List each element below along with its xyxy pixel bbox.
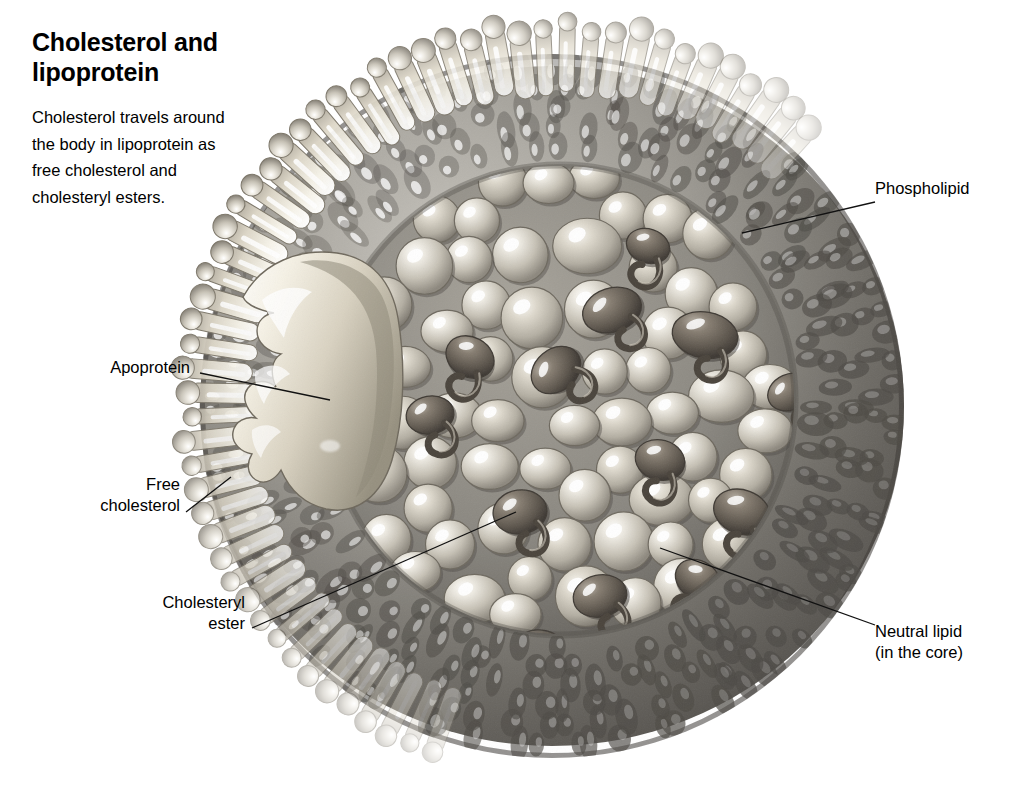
label-neutral-lipid: Neutral lipid (in the core)	[875, 621, 963, 662]
label-phospholipid: Phospholipid	[875, 178, 970, 199]
label-free-cholesterol: Free cholesterol	[0, 474, 180, 515]
particle-body	[170, 12, 911, 765]
figure-title: Cholesterol and lipoprotein	[32, 28, 282, 87]
label-apoprotein: Apoprotein	[0, 357, 190, 378]
figure-canvas: Cholesterol and lipoprotein Cholesterol …	[0, 0, 1016, 787]
label-cholesteryl-ester: Cholesteryl ester	[0, 592, 245, 633]
figure-intro: Cholesterol travels around the body in l…	[32, 104, 247, 211]
